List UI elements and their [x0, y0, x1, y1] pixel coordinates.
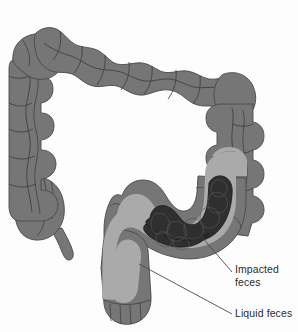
label-impacted-feces: Impacted feces: [235, 263, 279, 288]
label-impacted-feces-line2: feces: [235, 276, 279, 289]
label-liquid-feces-line1: Liquid feces: [235, 307, 292, 319]
leader-line-liquid-feces: [139, 264, 232, 314]
colon-illustration-figure: Impacted feces Liquid feces: [0, 0, 298, 332]
label-impacted-feces-line1: Impacted: [235, 263, 279, 275]
label-liquid-feces: Liquid feces: [235, 307, 292, 320]
